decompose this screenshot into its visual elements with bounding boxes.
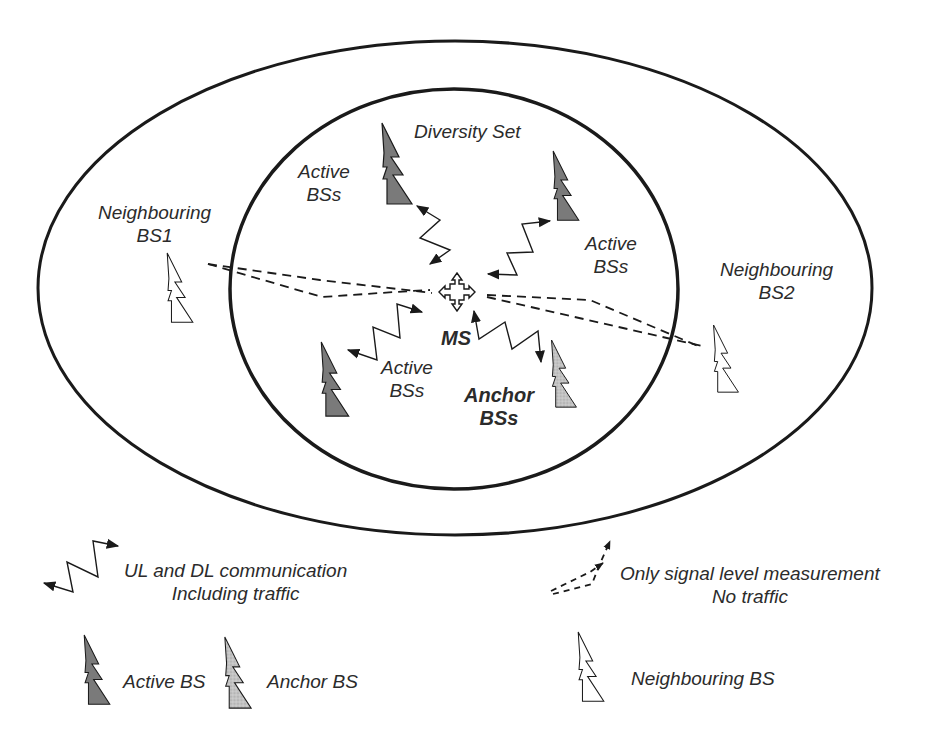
legend-anchor-bs-icon bbox=[225, 637, 251, 708]
label-line: Active bbox=[585, 232, 637, 255]
legend-neighbouring-bs-label: Neighbouring BS bbox=[631, 667, 775, 690]
label-line: Anchor bbox=[464, 384, 534, 407]
active-bs-top-left-icon bbox=[382, 123, 412, 204]
label-line: BSs bbox=[381, 379, 433, 402]
legend-active-bs-icon bbox=[84, 635, 110, 704]
label-line: Only signal level measurement bbox=[620, 562, 880, 585]
link-ms-anchor bbox=[474, 311, 541, 362]
neighbouring-bs1-icon bbox=[167, 253, 193, 322]
diversity-set-diagram bbox=[0, 0, 937, 750]
active-bs-top-right-icon bbox=[553, 151, 579, 220]
label-line: BS2 bbox=[720, 281, 833, 304]
label-line: UL and DL communication bbox=[124, 559, 347, 582]
label-line: BSs bbox=[298, 183, 350, 206]
legend-comm-icon bbox=[44, 541, 118, 592]
label-line: Active bbox=[381, 356, 433, 379]
legend-comm-label: UL and DL communication Including traffi… bbox=[124, 559, 347, 605]
link-ms-active-top-left bbox=[417, 206, 450, 264]
active-bss-top-left-label: Active BSs bbox=[298, 160, 350, 206]
link-ms-active-top-right bbox=[488, 221, 550, 275]
neighbouring-bs1-label: Neighbouring BS1 bbox=[98, 201, 211, 247]
label-line: Active bbox=[298, 160, 350, 183]
label-line: BSs bbox=[464, 407, 534, 430]
legend-measure-icon bbox=[551, 541, 610, 594]
label-line: BS1 bbox=[98, 224, 211, 247]
active-bs-bottom-left-icon bbox=[321, 342, 348, 416]
label-line: BSs bbox=[585, 255, 637, 278]
anchor-bss-label: Anchor BSs bbox=[464, 384, 534, 430]
ms-label: MS bbox=[441, 327, 471, 350]
legend-anchor-bs-label: Anchor BS bbox=[267, 670, 358, 693]
active-bss-bottom-label: Active BSs bbox=[381, 356, 433, 402]
label-line: No traffic bbox=[620, 585, 880, 608]
active-bss-right-label: Active BSs bbox=[585, 232, 637, 278]
anchor-bs-icon bbox=[552, 340, 577, 407]
label-line: Neighbouring bbox=[98, 201, 211, 224]
legend-measure-label: Only signal level measurement No traffic bbox=[620, 562, 880, 608]
legend-active-bs-label: Active BS bbox=[123, 670, 205, 693]
label-line: Neighbouring bbox=[720, 258, 833, 281]
neighbouring-bs2-icon bbox=[714, 325, 739, 392]
diversity-set-label: Diversity Set bbox=[414, 120, 521, 143]
link-ms-active-bottom-left bbox=[348, 304, 422, 360]
legend-neighbouring-bs-icon bbox=[578, 632, 604, 701]
label-line: Including traffic bbox=[124, 582, 347, 605]
ms-icon bbox=[439, 273, 475, 311]
neighbouring-bs2-label: Neighbouring BS2 bbox=[720, 258, 833, 304]
